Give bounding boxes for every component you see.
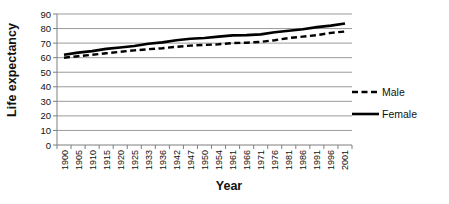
dashed-line-icon	[352, 89, 379, 95]
y-tick-label: 0	[46, 140, 51, 151]
x-tick-label: 2001	[340, 150, 350, 170]
x-tick-label: 1936	[158, 150, 168, 170]
tick-labels: 0102030405060708090190019051910191519201…	[40, 9, 350, 171]
solid-line-icon	[352, 111, 379, 117]
x-tick-label: 1942	[172, 150, 182, 170]
x-tick-label: 1991	[312, 150, 322, 170]
x-tick-label: 1900	[60, 150, 70, 170]
legend-label-female: Female	[382, 107, 417, 121]
x-tick-label: 1905	[74, 150, 84, 170]
y-axis-title: Life expectancy	[5, 23, 19, 117]
x-tick-label: 1954	[214, 150, 224, 170]
y-tick-label: 70	[40, 38, 51, 49]
y-tick-label: 20	[40, 110, 51, 121]
x-axis-title: Year	[216, 179, 243, 193]
legend-entry-male: Male	[352, 85, 448, 99]
male-line	[64, 32, 345, 58]
x-tick-label: 1933	[144, 150, 154, 170]
y-tick-label: 60	[40, 52, 51, 63]
x-tick-label: 1925	[130, 150, 140, 170]
life-expectancy-chart: 0102030405060708090190019051910191519201…	[0, 0, 449, 204]
x-tick-label: 1950	[200, 150, 210, 170]
x-tick-label: 1971	[256, 150, 266, 170]
y-tick-label: 50	[40, 67, 51, 78]
x-tick-label: 1947	[186, 150, 196, 170]
x-tick-label: 1961	[228, 150, 238, 170]
x-tick-label: 1966	[242, 150, 252, 170]
x-tick-label: 1981	[284, 150, 294, 170]
legend-label-male: Male	[382, 85, 405, 99]
x-tick-label: 1910	[88, 150, 98, 170]
x-tick-label: 1996	[326, 150, 336, 170]
x-tick-label: 1986	[298, 150, 308, 170]
gridlines	[57, 14, 352, 130]
y-tick-label: 30	[40, 96, 51, 107]
x-tick-label: 1915	[102, 150, 112, 170]
y-tick-label: 90	[40, 9, 51, 20]
x-tick-label: 1920	[116, 150, 126, 170]
y-tick-label: 40	[40, 81, 51, 92]
x-tick-label: 1976	[270, 150, 280, 170]
y-tick-label: 10	[40, 125, 51, 136]
legend: Male Female	[352, 85, 448, 129]
y-tick-label: 80	[40, 23, 51, 34]
legend-entry-female: Female	[352, 107, 448, 121]
axes	[53, 14, 352, 149]
